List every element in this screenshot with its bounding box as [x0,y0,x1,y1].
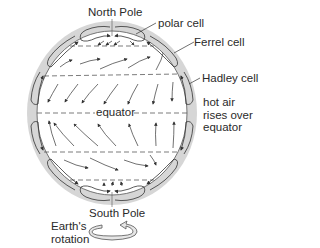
label-north-pole: North Pole [88,6,142,19]
rotation-arrow-icon [89,221,137,240]
label-hot-air-1: hot air [203,96,235,109]
label-rotation-2: rotation [51,233,89,246]
label-rotation-1: Earth's [51,220,86,233]
label-equator: equator [96,106,135,119]
label-hadley-cell: Hadley cell [202,72,258,85]
label-hot-air-3: equator [203,121,242,134]
label-south-pole: South Pole [89,207,145,220]
label-polar-cell: polar cell [158,17,204,30]
label-ferrel-cell: Ferrel cell [194,36,244,49]
